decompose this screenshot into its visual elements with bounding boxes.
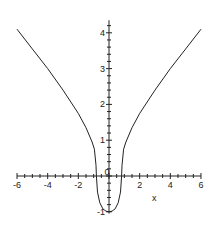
axes: -6-4-20246-11234 [13, 20, 203, 217]
y-tick-label: 3 [100, 64, 105, 74]
y-tick-label: 2 [100, 99, 105, 109]
x-tick-label: -4 [44, 180, 52, 190]
x-tick-label: -6 [13, 180, 21, 190]
x-axis-label: x [152, 193, 157, 203]
x-tick-label: 6 [198, 180, 203, 190]
y-tick-label: -1 [97, 207, 105, 217]
y-tick-label: 4 [100, 28, 105, 38]
x-tick-label: -2 [74, 180, 82, 190]
chart: -6-4-20246-11234 x [0, 0, 214, 229]
plot-area: -6-4-20246-11234 x [0, 0, 214, 229]
y-tick-label: 1 [100, 135, 105, 145]
x-tick-label: 4 [168, 180, 173, 190]
x-tick-label: 2 [137, 180, 142, 190]
